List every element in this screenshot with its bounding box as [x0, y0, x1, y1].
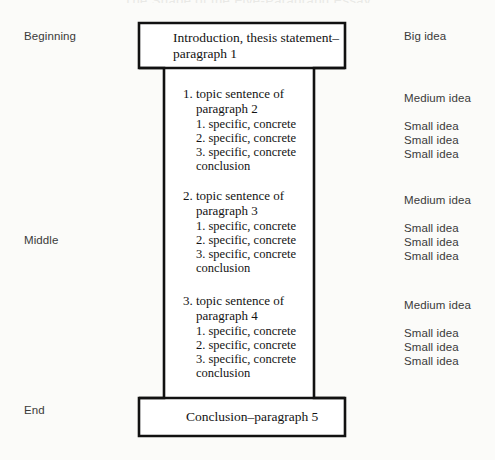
left-label-middle: Middle [24, 234, 58, 246]
group-2-detail-3: 3. specific, concrete [196, 247, 296, 262]
right-label-medium-idea-1: Medium idea [404, 92, 471, 104]
right-label-medium-idea-2: Medium idea [404, 194, 471, 206]
left-label-beginning: Beginning [24, 30, 76, 42]
group-2-closing: conclusion [196, 261, 250, 276]
intro-box-line-2: paragraph 1 [173, 46, 237, 63]
group-1-detail-1: 1. specific, concrete [196, 117, 296, 132]
group-2-topic-line-2: paragraph 3 [196, 203, 258, 219]
group-1-closing: conclusion [196, 159, 250, 174]
group-3-detail-2: 2. specific, concrete [196, 338, 296, 353]
right-label-small-idea-2a: Small idea [404, 222, 459, 234]
right-label-small-idea-2c: Small idea [404, 250, 459, 262]
right-label-small-idea-1b: Small idea [404, 134, 459, 146]
group-3-detail-1: 1. specific, concrete [196, 324, 296, 339]
conclusion-box-line-1: Conclusion–paragraph 5 [186, 409, 318, 426]
right-label-small-idea-3a: Small idea [404, 327, 459, 339]
group-1-detail-3: 3. specific, concrete [196, 145, 296, 160]
group-3-topic-line-1: 3. topic sentence of [183, 293, 284, 309]
essay-structure-diagram: The Shape of the Five-Paragraph Essay Be… [0, 0, 495, 460]
right-label-small-idea-1a: Small idea [404, 120, 459, 132]
left-label-end: End [24, 404, 45, 416]
group-3-closing: conclusion [196, 366, 250, 381]
group-3-detail-3: 3. specific, concrete [196, 352, 296, 367]
group-1-detail-2: 2. specific, concrete [196, 131, 296, 146]
group-2-detail-1: 1. specific, concrete [196, 219, 296, 234]
right-label-small-idea-2b: Small idea [404, 236, 459, 248]
figure-title-remnant: The Shape of the Five-Paragraph Essay [0, 0, 495, 3]
intro-box-line-1: Introduction, thesis statement– [173, 30, 339, 47]
right-label-medium-idea-3: Medium idea [404, 299, 471, 311]
right-label-small-idea-3c: Small idea [404, 355, 459, 367]
right-label-small-idea-3b: Small idea [404, 341, 459, 353]
right-label-small-idea-1c: Small idea [404, 148, 459, 160]
right-label-big-idea: Big idea [404, 30, 446, 42]
group-2-topic-line-1: 2. topic sentence of [183, 188, 284, 204]
group-1-topic-line-2: paragraph 2 [196, 101, 258, 117]
group-2-detail-2: 2. specific, concrete [196, 233, 296, 248]
group-1-topic-line-1: 1. topic sentence of [183, 86, 284, 102]
group-3-topic-line-2: paragraph 4 [196, 308, 258, 324]
